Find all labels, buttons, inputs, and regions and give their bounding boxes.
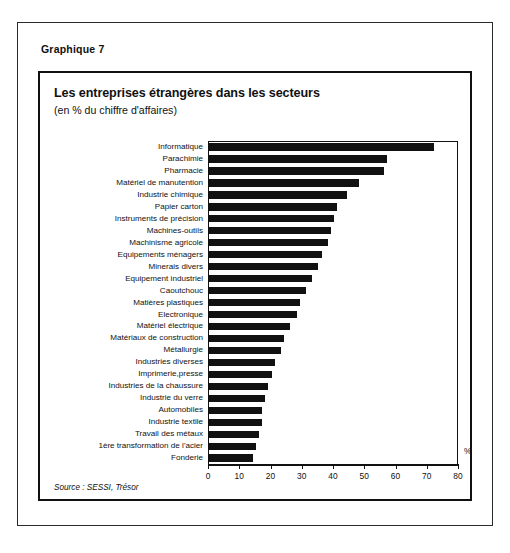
x-axis-tick-label: 10 xyxy=(235,471,244,481)
category-label: Instruments de précision xyxy=(40,213,208,225)
category-label: Machinisme agricole xyxy=(40,237,208,249)
bar-row xyxy=(209,165,457,177)
bar xyxy=(209,227,331,234)
x-axis-tick-label: 70 xyxy=(422,471,431,481)
x-axis-tick xyxy=(208,464,209,469)
bar-row xyxy=(209,273,457,285)
x-axis-tick xyxy=(239,464,240,469)
bar xyxy=(209,299,300,306)
bar-row xyxy=(209,333,457,345)
category-label: Minerais divers xyxy=(40,261,208,273)
bar-row xyxy=(209,404,457,416)
bar-row xyxy=(209,392,457,404)
x-axis: 01020304050607080 xyxy=(208,464,458,486)
bar-row xyxy=(209,440,457,452)
bar xyxy=(209,287,306,294)
category-label: Informatique xyxy=(40,141,208,153)
x-axis-tick xyxy=(333,464,334,469)
category-label: Equipement industriel xyxy=(40,273,208,285)
bar-row xyxy=(209,344,457,356)
x-axis-tick-label: 80 xyxy=(453,471,462,481)
bar xyxy=(209,443,256,450)
bar-row xyxy=(209,416,457,428)
bar-row xyxy=(209,249,457,261)
category-label: Fonderie xyxy=(40,452,208,464)
x-axis-tick-label: 50 xyxy=(360,471,369,481)
x-axis-tick xyxy=(396,464,397,469)
category-label: Travail des métaux xyxy=(40,428,208,440)
bar-row xyxy=(209,380,457,392)
bar xyxy=(209,407,262,414)
x-axis-tick-label: 60 xyxy=(391,471,400,481)
category-label: Matières plastiques xyxy=(40,297,208,309)
category-label: Matériel de manutention xyxy=(40,177,208,189)
bar xyxy=(209,167,384,174)
category-label: 1ère transformation de l'acier xyxy=(40,440,208,452)
x-axis-tick xyxy=(271,464,272,469)
bar xyxy=(209,335,284,342)
chart-subtitle: (en % du chiffre d'affaires) xyxy=(54,104,177,116)
chart-title: Les entreprises étrangères dans les sect… xyxy=(54,86,320,100)
bar-row xyxy=(209,201,457,213)
category-label: Caoutchouc xyxy=(40,285,208,297)
x-axis-tick-label: 0 xyxy=(206,471,211,481)
category-label: Automobiles xyxy=(40,404,208,416)
category-label: Equipements ménagers xyxy=(40,249,208,261)
bar xyxy=(209,383,268,390)
bar xyxy=(209,371,272,378)
bar-row xyxy=(209,177,457,189)
bar-row xyxy=(209,321,457,333)
category-label: Matériel électrique xyxy=(40,321,208,333)
category-label: Industries de la chaussure xyxy=(40,380,208,392)
bar-row xyxy=(209,356,457,368)
bar-series xyxy=(209,141,457,464)
bar-row xyxy=(209,452,457,464)
x-axis-tick-label: 30 xyxy=(297,471,306,481)
bar xyxy=(209,155,387,162)
bar-row xyxy=(209,261,457,273)
category-label: Industrie chimique xyxy=(40,189,208,201)
chart-card: Les entreprises étrangères dans les sect… xyxy=(38,71,472,501)
category-label: Matériaux de construction xyxy=(40,333,208,345)
bar xyxy=(209,323,290,330)
bar-row xyxy=(209,189,457,201)
bar xyxy=(209,311,297,318)
bar-row xyxy=(209,297,457,309)
bar xyxy=(209,347,281,354)
bar xyxy=(209,263,318,270)
category-label: Papier carton xyxy=(40,201,208,213)
category-axis: InformatiqueParachimiePharmacieMatériel … xyxy=(40,141,208,464)
x-axis-tick-label: 20 xyxy=(266,471,275,481)
category-label: Industries diverses xyxy=(40,356,208,368)
bar-row xyxy=(209,225,457,237)
bar xyxy=(209,239,328,246)
bar xyxy=(209,203,337,210)
bar-row xyxy=(209,153,457,165)
bar xyxy=(209,454,253,461)
source-note: Source : SESSI, Trésor xyxy=(54,483,138,492)
x-axis-unit-label: % xyxy=(464,446,471,456)
category-label: Métallurgie xyxy=(40,344,208,356)
plot-wrapper: InformatiqueParachimiePharmacieMatériel … xyxy=(40,141,474,486)
x-axis-tick xyxy=(458,464,459,469)
category-label: Imprimerie,presse xyxy=(40,368,208,380)
x-axis-tick xyxy=(302,464,303,469)
bar xyxy=(209,215,334,222)
bar xyxy=(209,275,312,282)
bar-row xyxy=(209,368,457,380)
bar-row xyxy=(209,285,457,297)
category-label: Electronique xyxy=(40,309,208,321)
plot-area xyxy=(208,141,458,464)
bar xyxy=(209,359,275,366)
bar-row xyxy=(209,213,457,225)
category-label: Parachimie xyxy=(40,153,208,165)
category-label: Industrie du verre xyxy=(40,392,208,404)
figure-number-label: Graphique 7 xyxy=(41,43,104,55)
category-label: Machines-outils xyxy=(40,225,208,237)
x-axis-tick xyxy=(364,464,365,469)
bar-row xyxy=(209,237,457,249)
category-label: Pharmacie xyxy=(40,165,208,177)
bar xyxy=(209,395,265,402)
bar xyxy=(209,419,262,426)
x-axis-tick xyxy=(427,464,428,469)
